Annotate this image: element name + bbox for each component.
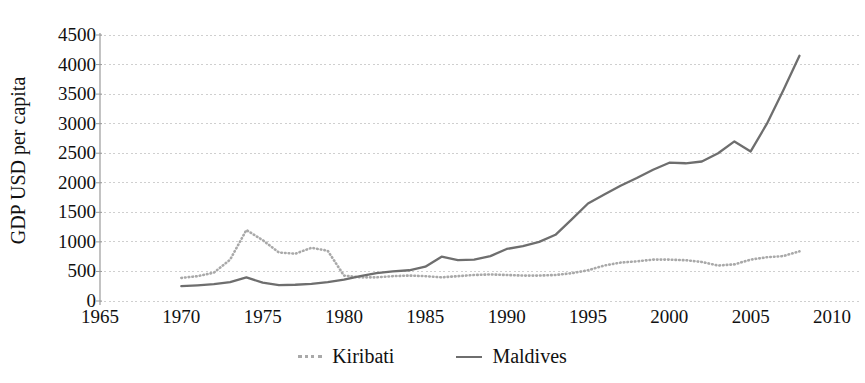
legend-swatch-kiribati-dotted-line xyxy=(298,355,322,358)
legend-item-kiribati[interactable]: Kiribati xyxy=(298,345,394,368)
y-axis-tick-1500: 1500 xyxy=(34,202,96,221)
y-axis-tick-3500: 3500 xyxy=(34,84,96,103)
gdp-per-capita-line-chart: GDP USD per capita 050010001500200025003… xyxy=(0,0,865,383)
x-axis-tick-2010: 2010 xyxy=(797,306,865,328)
x-axis-tick-1995: 1995 xyxy=(553,306,623,328)
x-axis-tick-1980: 1980 xyxy=(309,306,379,328)
y-axis-tick-labels: 050010001500200025003000350040004500 xyxy=(32,0,96,340)
legend-item-maldives[interactable]: Maldives xyxy=(456,345,566,368)
y-axis-tick-2000: 2000 xyxy=(34,173,96,192)
y-axis-tick-1000: 1000 xyxy=(34,232,96,251)
y-axis-title-text: GDP USD per capita xyxy=(8,76,31,244)
chart-legend: Kiribati Maldives xyxy=(0,345,865,368)
x-axis-tick-1985: 1985 xyxy=(390,306,460,328)
x-axis-tick-1970: 1970 xyxy=(146,306,216,328)
legend-swatch-maldives-solid-line xyxy=(456,356,482,358)
y-axis-tick-2500: 2500 xyxy=(34,143,96,162)
y-axis-tick-4500: 4500 xyxy=(34,25,96,44)
series-line-maldives xyxy=(181,56,799,287)
legend-label-kiribati: Kiribati xyxy=(332,345,394,368)
y-axis-tick-4000: 4000 xyxy=(34,55,96,74)
x-axis-tick-2005: 2005 xyxy=(716,306,786,328)
x-axis-tick-1990: 1990 xyxy=(472,306,542,328)
series-line-kiribati xyxy=(181,230,799,278)
y-axis-tick-3000: 3000 xyxy=(34,114,96,133)
x-axis-tick-2000: 2000 xyxy=(634,306,704,328)
y-axis-title: GDP USD per capita xyxy=(2,0,36,320)
legend-label-maldives: Maldives xyxy=(492,345,566,368)
x-axis-tick-1965: 1965 xyxy=(65,306,135,328)
y-axis-tick-500: 500 xyxy=(34,261,96,280)
x-axis-tick-1975: 1975 xyxy=(228,306,298,328)
